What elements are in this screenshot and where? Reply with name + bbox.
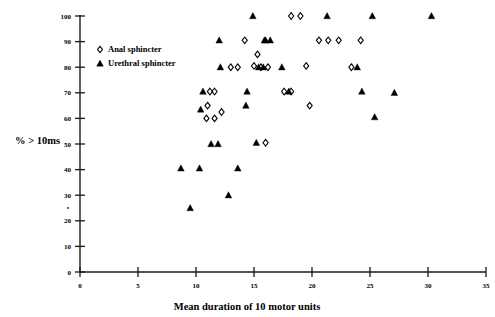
data-point xyxy=(354,64,361,70)
y-tick-label: 10 xyxy=(64,243,72,251)
x-tick-label: 25 xyxy=(367,282,375,290)
data-point xyxy=(212,115,217,122)
data-point xyxy=(178,165,185,171)
data-point xyxy=(359,88,366,94)
y-tick-label: 30 xyxy=(64,192,72,200)
x-tick-label: 35 xyxy=(483,282,491,290)
data-point xyxy=(251,63,256,70)
legend-label: Anal sphincter xyxy=(108,44,162,54)
data-point xyxy=(326,37,331,44)
data-point xyxy=(253,139,260,145)
x-tick-label: 10 xyxy=(193,282,201,290)
data-point xyxy=(217,64,224,70)
y-tick-label: 90 xyxy=(64,38,72,46)
data-point xyxy=(228,64,233,71)
chart-canvas: 010203040506070809010005101520253035 Ana… xyxy=(0,0,495,317)
data-point xyxy=(304,63,309,70)
scatter-chart-figure: 010203040506070809010005101520253035 Ana… xyxy=(0,0,495,317)
data-point xyxy=(244,88,251,94)
x-tick-label: 5 xyxy=(136,282,140,290)
data-point xyxy=(225,192,232,198)
y-tick-label: 0 xyxy=(68,269,72,277)
data-point xyxy=(219,109,224,116)
data-point xyxy=(200,88,207,94)
legend-label: Urethral sphincter xyxy=(108,58,176,68)
y-tick-label: 100 xyxy=(61,13,72,21)
data-point xyxy=(205,102,210,109)
data-point xyxy=(289,13,294,20)
data-points xyxy=(178,13,435,211)
data-point xyxy=(263,139,268,146)
y-tick-label: 50 xyxy=(64,141,72,149)
series-anal-sphincter xyxy=(204,13,363,146)
axis-speck xyxy=(67,207,69,209)
legend-marker-open-diamond-icon xyxy=(98,46,103,52)
data-point xyxy=(336,37,341,44)
data-point xyxy=(208,141,215,147)
x-tick-label: 20 xyxy=(309,282,317,290)
data-point xyxy=(196,165,203,171)
data-point xyxy=(234,165,241,171)
x-tick-label: 30 xyxy=(425,282,433,290)
data-point xyxy=(369,13,376,19)
y-tick-label: 40 xyxy=(64,166,72,174)
legend-marker-filled-triangle-icon xyxy=(97,60,104,66)
x-axis-title: Mean duration of 10 motor units xyxy=(174,301,321,312)
data-point xyxy=(279,64,286,70)
data-point xyxy=(428,13,435,19)
x-tick-label: 15 xyxy=(251,282,259,290)
data-point xyxy=(324,13,331,19)
data-point xyxy=(255,51,260,58)
data-point xyxy=(349,64,354,71)
series-urethral-sphincter xyxy=(178,13,435,211)
data-point xyxy=(371,114,378,120)
y-tick-label: 20 xyxy=(64,217,72,225)
data-point xyxy=(215,141,222,147)
data-point xyxy=(250,13,257,19)
y-tick-label: 70 xyxy=(64,89,72,97)
data-point xyxy=(204,115,209,122)
data-point xyxy=(267,37,274,43)
y-tick-label: 60 xyxy=(64,115,72,123)
data-point xyxy=(187,205,194,211)
data-point xyxy=(242,37,247,44)
data-point xyxy=(316,37,321,44)
y-tick-label: 80 xyxy=(64,64,72,72)
data-point xyxy=(235,64,240,71)
tick-labels: 010203040506070809010005101520253035 xyxy=(61,13,491,290)
data-point xyxy=(216,37,223,43)
data-point xyxy=(307,102,312,109)
data-point xyxy=(391,89,398,95)
chart-legend: Anal sphincterUrethral sphincter xyxy=(97,44,176,68)
y-axis-title: % > 10ms xyxy=(15,135,60,146)
data-point xyxy=(358,37,363,44)
axes xyxy=(67,15,486,277)
data-point xyxy=(243,102,250,108)
data-point xyxy=(197,106,204,112)
data-point xyxy=(298,13,303,20)
x-tick-label: 0 xyxy=(78,282,82,290)
